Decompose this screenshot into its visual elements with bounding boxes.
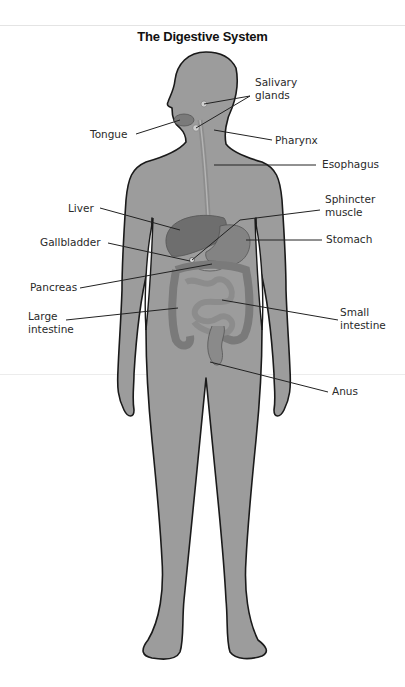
label-sphincter-muscle: Sphincter muscle <box>325 193 375 219</box>
label-stomach: Stomach <box>326 233 372 246</box>
label-esophagus: Esophagus <box>322 158 379 171</box>
label-gallbladder: Gallbladder <box>40 236 101 249</box>
label-anus: Anus <box>332 385 358 398</box>
label-pancreas: Pancreas <box>30 281 77 294</box>
label-tongue: Tongue <box>90 128 128 141</box>
label-salivary-glands: Salivary glands <box>255 76 297 102</box>
rectum-organ <box>208 326 225 365</box>
human-body-figure <box>0 0 405 687</box>
label-small-intestine: Small intestine <box>340 306 386 332</box>
label-liver: Liver <box>68 202 94 215</box>
label-pharynx: Pharynx <box>275 134 318 147</box>
mouth-cavity <box>174 114 194 126</box>
label-large-intestine: Large intestine <box>28 310 74 336</box>
